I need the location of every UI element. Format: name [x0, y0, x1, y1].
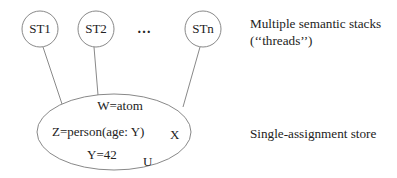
threads-annotation-line1: Multiple semantic stacks — [250, 16, 381, 31]
threads-annotation-line2: (‘‘threads’’) — [250, 33, 312, 48]
thread-label: STn — [192, 21, 214, 36]
unbound-x: X — [170, 127, 180, 142]
binding-w: W=atom — [97, 98, 143, 113]
edge-st1-store — [43, 47, 62, 104]
binding-y: Y=42 — [87, 147, 117, 162]
edge-stn-store — [183, 47, 200, 107]
store-annotation: Single-assignment store — [250, 126, 377, 141]
single-assignment-store: W=atom Z=person(age: Y) Y=42 X U — [37, 94, 191, 170]
unbound-u: U — [143, 154, 153, 169]
thread-label: ST2 — [85, 21, 107, 36]
thread-label: ST1 — [29, 21, 51, 36]
thread-st2: ST2 — [78, 11, 114, 47]
thread-st1: ST1 — [22, 11, 58, 47]
computation-model-diagram: ST1 ST2 … STn W=atom Z=person(age: Y) Y=… — [0, 0, 397, 178]
ellipsis: … — [137, 21, 151, 36]
thread-stn: STn — [185, 11, 221, 47]
edge-st2-store — [94, 47, 98, 95]
binding-z: Z=person(age: Y) — [52, 124, 144, 139]
